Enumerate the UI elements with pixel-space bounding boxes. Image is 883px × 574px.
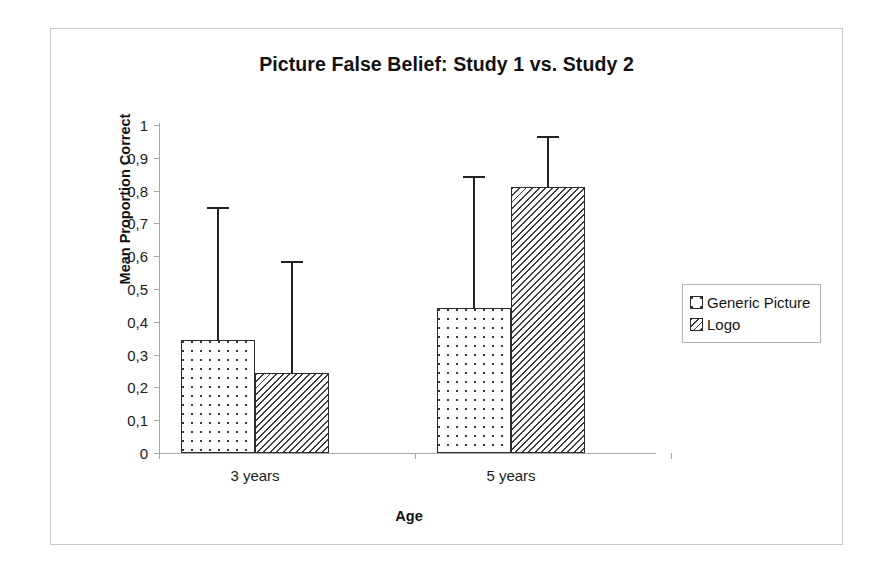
y-axis-tick-label: 0,1 — [88, 412, 148, 429]
y-axis-tick-label: 0,4 — [88, 313, 148, 330]
legend-swatch-icon — [690, 296, 703, 309]
legend-item[interactable]: Generic Picture — [690, 291, 810, 313]
x-axis-tick — [671, 453, 672, 459]
plot-area — [159, 125, 652, 453]
y-axis-tick-label: 0,6 — [88, 248, 148, 265]
y-axis-tick-label: 0 — [88, 445, 148, 462]
error-bar-cap — [207, 207, 229, 209]
legend-swatch-icon — [690, 318, 703, 331]
chart-title: Picture False Belief: Study 1 vs. Study … — [51, 53, 842, 76]
error-bar-cap — [281, 261, 303, 263]
bar — [511, 187, 585, 453]
error-bar-stem — [291, 261, 293, 373]
legend-item-label: Generic Picture — [707, 295, 810, 310]
legend-item-label: Logo — [707, 317, 740, 332]
figure-frame: Picture False Belief: Study 1 vs. Study … — [50, 28, 843, 545]
y-axis-tick-label: 1 — [88, 117, 148, 134]
chart-legend: Generic PictureLogo — [682, 284, 821, 343]
error-bar-stem — [547, 136, 549, 187]
error-bar-cap — [463, 176, 485, 178]
x-axis-line — [159, 453, 656, 454]
y-axis-tick-label: 0,8 — [88, 182, 148, 199]
y-axis-tick-label: 0,7 — [88, 215, 148, 232]
x-axis-tick — [415, 453, 416, 459]
x-axis-title: Age — [159, 508, 659, 524]
x-axis-tick — [159, 453, 160, 459]
y-axis-tick-label: 0,2 — [88, 379, 148, 396]
bar — [437, 308, 511, 453]
legend-item[interactable]: Logo — [690, 313, 810, 335]
x-axis-category-label: 3 years — [165, 467, 345, 484]
y-axis-tick-label: 0,3 — [88, 346, 148, 363]
bar — [181, 340, 255, 453]
y-axis-tick-label: 0,5 — [88, 281, 148, 298]
error-bar-stem — [217, 207, 219, 340]
bar — [255, 373, 329, 453]
error-bar-cap — [537, 136, 559, 138]
y-axis-tick-label: 0,9 — [88, 149, 148, 166]
error-bar-stem — [473, 176, 475, 308]
y-axis-tick-labels: 10,90,80,70,60,50,40,30,20,10 — [86, 29, 148, 544]
x-axis-category-label: 5 years — [421, 467, 601, 484]
